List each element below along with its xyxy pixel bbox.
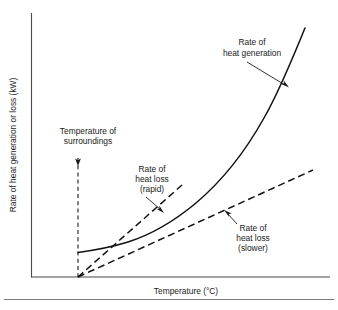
annotation-generation-line-2: heat generation: [223, 48, 282, 58]
annotation-temperature-of-surroundings: Temperature of surroundings: [60, 126, 117, 146]
y-axis-label: Rate of heat generation or loss (kW): [8, 78, 18, 213]
annotation-rate-of-heat-loss-slower: Rate of heat loss (slower): [224, 210, 270, 253]
curve-rate-of-heat-loss-slower: [78, 170, 313, 277]
annotation-surroundings-line-1: Temperature of: [60, 126, 117, 136]
annotation-loss-slower-arrowhead-icon: [224, 210, 232, 217]
annotation-loss-slower-line-3: (slower): [238, 243, 268, 253]
curve-rate-of-heat-loss-rapid: [78, 185, 182, 277]
annotation-rate-of-heat-generation: Rate of heat generation: [223, 37, 289, 88]
annotation-loss-slower-line-2: heat loss: [236, 233, 270, 243]
annotation-loss-slower-line-1: Rate of: [239, 223, 267, 233]
figure-heat-generation-loss: Temperature of surroundings Rate of heat…: [0, 0, 338, 310]
annotation-rate-of-heat-loss-rapid: Rate of heat loss (rapid): [135, 164, 169, 213]
annotation-surroundings-line-2: surroundings: [64, 136, 112, 146]
annotation-loss-rapid-line-1: Rate of: [138, 164, 166, 174]
annotation-loss-rapid-leader-line: [146, 197, 161, 210]
annotation-loss-rapid-line-3: (rapid): [140, 184, 164, 194]
annotation-loss-rapid-line-2: heat loss: [135, 174, 169, 184]
annotation-generation-line-1: Rate of: [238, 37, 266, 47]
x-axis-label: Temperature (°C): [154, 286, 219, 296]
surroundings-reference-line: [75, 158, 81, 277]
annotation-generation-leader-line: [247, 62, 285, 85]
